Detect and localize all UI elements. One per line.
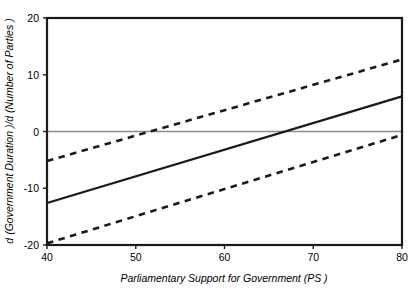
y-tick-label: -20	[24, 239, 39, 251]
y-tick-label: 10	[27, 69, 39, 81]
y-tick-label: 20	[27, 12, 39, 24]
x-axis-title: Parliamentary Support for Government (PS…	[120, 272, 327, 284]
y-tick-label: 0	[33, 126, 39, 138]
plot-background	[0, 0, 415, 292]
x-tick-label: 50	[130, 251, 142, 263]
x-tick-label: 70	[307, 251, 319, 263]
y-tick-label: -10	[24, 182, 39, 194]
y-axis-title: d (Government Duration )/d (Number of Pa…	[3, 18, 15, 243]
figure-container: 4050607080 -20-1001020 Parliamentary Sup…	[0, 0, 415, 292]
x-tick-label: 80	[396, 251, 408, 263]
x-tick-label: 60	[219, 251, 231, 263]
marginal-effect-plot: 4050607080 -20-1001020 Parliamentary Sup…	[0, 0, 415, 292]
x-tick-label: 40	[41, 251, 53, 263]
